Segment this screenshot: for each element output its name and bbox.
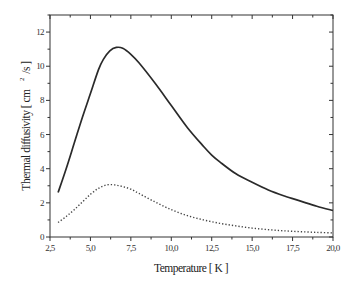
x-tick-label: 10,0 [165,243,179,253]
y-axis-title-tail: /s ] [20,61,32,73]
dotted-curve [58,185,333,233]
x-tick-label: 7,5 [126,243,137,253]
y-tick-label: 10 [36,61,45,71]
x-tick-label: 5,0 [86,243,97,253]
x-tick-label: 12,5 [205,243,219,253]
y-tick-label: 2 [40,198,44,208]
thermal-diffusivity-chart: 2,55,07,510,012,515,017,520,0 024681012 … [0,0,358,287]
y-axis-ticks: 024681012 [36,15,333,242]
y-tick-label: 0 [40,232,45,242]
x-tick-label: 20,0 [326,243,340,253]
y-tick-label: 6 [40,130,45,140]
x-tick-label: 17,5 [286,243,300,253]
y-axis-title-superscript: 2 [18,77,26,81]
y-axis-title: Thermal diffusivity [ cm 2 /s ] [14,61,33,190]
solid-curve [58,47,333,210]
plot-frame [50,15,333,237]
x-axis-title: Temperature [ K ] [154,262,228,275]
series-layer [58,47,333,233]
plot-border [50,15,333,237]
x-tick-label: 2,5 [45,243,56,253]
y-tick-label: 8 [40,95,45,105]
y-axis-title-main: Thermal diffusivity [ cm [20,89,33,191]
x-tick-label: 15,0 [245,243,259,253]
y-tick-label: 4 [40,164,45,174]
y-tick-label: 12 [36,27,44,37]
